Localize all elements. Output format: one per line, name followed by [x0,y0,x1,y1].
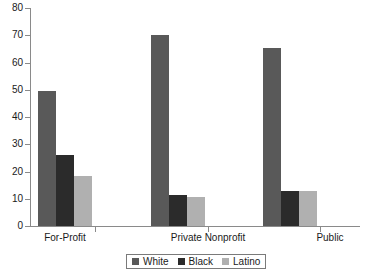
bar [151,35,169,226]
y-axis-line [30,8,31,227]
y-axis-tick [25,199,30,200]
legend-item-label: Black [189,257,213,267]
legend-item[interactable]: Black [178,257,213,267]
y-axis-tick-label: 60 [0,58,23,68]
legend-swatch-icon [132,258,139,265]
bar [263,48,281,226]
legend-item-label: Latino [233,257,260,267]
x-axis-category-label: For-Profit [5,232,125,243]
bar [56,155,74,226]
y-axis-tick-label: 70 [0,30,23,40]
bar [169,195,187,226]
legend-item[interactable]: White [132,257,169,267]
x-axis-category-label: Public [270,232,365,243]
y-axis-tick-label: 50 [0,85,23,95]
y-axis-tick [25,117,30,118]
bar [281,191,299,226]
y-axis-tick [25,8,30,9]
bar [74,176,92,226]
x-axis-line [30,226,360,227]
y-axis-tick-label: 0 [0,221,23,231]
bar-chart: 01020304050607080 For-ProfitPrivate Nonp… [0,0,365,275]
y-axis-tick-label: 10 [0,194,23,204]
y-axis-tick-label: 40 [0,112,23,122]
bar [187,197,205,226]
legend-item-label: White [143,257,169,267]
chart-legend: WhiteBlackLatino [126,254,266,269]
legend-swatch-icon [222,258,229,265]
y-axis-tick-label: 30 [0,139,23,149]
plot-area: 01020304050607080 [30,8,360,227]
y-axis-tick [25,90,30,91]
x-axis-category-label: Private Nonprofit [148,232,268,243]
y-axis-tick [25,144,30,145]
legend-swatch-icon [178,258,185,265]
bar [38,91,56,226]
bar [299,191,317,226]
y-axis-tick [25,35,30,36]
y-axis-tick-label: 80 [0,3,23,13]
legend-item[interactable]: Latino [222,257,260,267]
y-axis-tick [25,226,30,227]
y-axis-tick-label: 20 [0,167,23,177]
y-axis-tick [25,172,30,173]
y-axis-tick [25,63,30,64]
